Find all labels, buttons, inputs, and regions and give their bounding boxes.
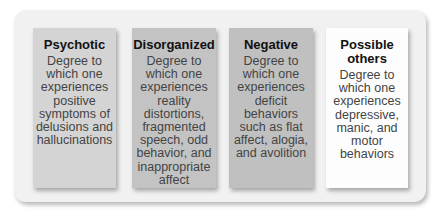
box-title: Psychotic — [33, 38, 116, 52]
box-psychotic: Psychotic Degree to which one experience… — [33, 28, 116, 188]
box-description: Degree to which one experiences depressi… — [326, 69, 408, 161]
box-description: Degree to which one experiences reality … — [132, 55, 216, 187]
box-title: Possible others — [337, 38, 397, 66]
box-negative: Negative Degree to which one experiences… — [229, 28, 313, 188]
box-description: Degree to which one experiences deficit … — [229, 55, 313, 161]
box-description: Degree to which one experiences positive… — [33, 55, 116, 147]
box-possible-others: Possible others Degree to which one expe… — [326, 28, 408, 188]
box-title: Negative — [229, 38, 313, 52]
box-disorganized: Disorganized Degree to which one experie… — [132, 28, 216, 188]
box-title: Disorganized — [132, 38, 216, 52]
